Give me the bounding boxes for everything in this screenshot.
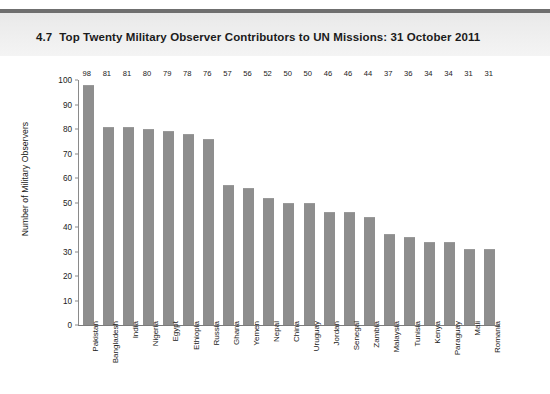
bar-value-label: 80: [143, 69, 151, 78]
bar-value-label: 76: [203, 69, 211, 78]
x-axis-tick-label: Ethiopia: [192, 321, 201, 350]
bar[interactable]: 56: [243, 188, 254, 325]
bar[interactable]: 31: [484, 249, 495, 325]
bar[interactable]: 80: [143, 129, 154, 325]
x-axis-tick-label: Pakistan: [91, 321, 100, 352]
bar[interactable]: 79: [163, 131, 174, 325]
x-axis-tick-label: Romania: [493, 321, 502, 353]
bar-slot: 98Pakistan: [78, 80, 98, 325]
bar-slot: 50China: [279, 80, 299, 325]
bar-value-label: 36: [404, 69, 412, 78]
bar-slot: 52Nepal: [259, 80, 279, 325]
x-axis-tick-label: Zambia: [372, 321, 381, 348]
bar[interactable]: 78: [183, 134, 194, 325]
bar-series: 98Pakistan81Bangladesh81India80Nigeria79…: [78, 80, 500, 325]
bar[interactable]: 81: [103, 127, 114, 325]
bar-slot: 31Romania: [480, 80, 500, 325]
bar-value-label: 31: [464, 69, 472, 78]
bar-slot: 34Kenya: [420, 80, 440, 325]
bar[interactable]: 50: [283, 203, 294, 326]
bar-slot: 76Russia: [199, 80, 219, 325]
bar-slot: 37Malaysia: [379, 80, 399, 325]
page-title: Top Twenty Military Observer Contributor…: [59, 31, 480, 43]
bar-value-label: 34: [424, 69, 432, 78]
bar-value-label: 78: [183, 69, 191, 78]
bar-slot: 44Zambia: [359, 80, 379, 325]
bar-value-label: 52: [263, 69, 271, 78]
x-axis-tick-label: Uruguay: [312, 321, 321, 351]
bar[interactable]: 76: [203, 139, 214, 325]
figure-number: 4.7: [36, 31, 52, 43]
bar-value-label: 46: [344, 69, 352, 78]
bar[interactable]: 46: [344, 212, 355, 325]
bar[interactable]: 57: [223, 185, 234, 325]
plot-area: 0102030405060708090100 98Pakistan81Bangl…: [78, 80, 500, 325]
bar-slot: 57Ghana: [219, 80, 239, 325]
bar-value-label: 81: [103, 69, 111, 78]
x-axis-tick-label: Malaysia: [392, 321, 401, 353]
bar-value-label: 37: [384, 69, 392, 78]
bar-slot: 78Ethiopia: [178, 80, 198, 325]
bar-value-label: 34: [444, 69, 452, 78]
figure-header-text: 4.7 Top Twenty Military Observer Contrib…: [36, 31, 480, 43]
bar-slot: 81India: [118, 80, 138, 325]
bar-value-label: 98: [83, 69, 91, 78]
bar[interactable]: 52: [263, 198, 274, 325]
bar-slot: 46Jordan: [319, 80, 339, 325]
bar[interactable]: 46: [324, 212, 335, 325]
bar-slot: 46Senegal: [339, 80, 359, 325]
bar-value-label: 50: [304, 69, 312, 78]
bar-slot: 34Paraguay: [440, 80, 460, 325]
y-axis-title: Number of Military Observers: [20, 79, 30, 279]
bar[interactable]: 34: [424, 242, 435, 325]
bar[interactable]: 36: [404, 237, 415, 325]
bar[interactable]: 98: [83, 85, 94, 325]
bar-value-label: 31: [484, 69, 492, 78]
bar-value-label: 44: [364, 69, 372, 78]
bar[interactable]: 31: [464, 249, 475, 325]
bar-chart: Number of Military Observers 01020304050…: [0, 56, 550, 394]
x-axis-tick-label: Paraguay: [453, 321, 462, 355]
bar-value-label: 56: [243, 69, 251, 78]
figure-header-band: 4.7 Top Twenty Military Observer Contrib…: [0, 9, 550, 56]
bar[interactable]: 34: [444, 242, 455, 325]
bar[interactable]: 50: [304, 203, 315, 326]
bar[interactable]: 81: [123, 127, 134, 325]
bar-value-label: 79: [163, 69, 171, 78]
bar-slot: 56Yemen: [239, 80, 259, 325]
bar-slot: 80Nigeria: [138, 80, 158, 325]
bar-value-label: 50: [283, 69, 291, 78]
bar-slot: 50Uruguay: [299, 80, 319, 325]
bar-value-label: 57: [223, 69, 231, 78]
bar-slot: 79Egypt: [158, 80, 178, 325]
x-axis-tick-label: Bangladesh: [111, 321, 120, 363]
bar-value-label: 81: [123, 69, 131, 78]
bar-value-label: 46: [324, 69, 332, 78]
bar-slot: 31Mali: [460, 80, 480, 325]
bar-slot: 36Tunisia: [400, 80, 420, 325]
x-axis-tick-label: Senegal: [352, 321, 361, 350]
bar[interactable]: 44: [364, 217, 375, 325]
bar-slot: 81Bangladesh: [98, 80, 118, 325]
bar[interactable]: 37: [384, 234, 395, 325]
